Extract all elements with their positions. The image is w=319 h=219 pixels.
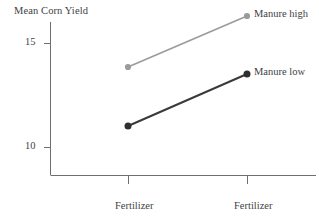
interaction-plot-canvas [0,0,319,219]
x-tick-label-fertilizer-low-line1: Fertilizer [115,200,153,211]
x-tick-label-fertilizer-high: Fertilizer high [203,190,293,219]
y-axis-title: Mean Corn Yield [14,6,88,17]
data-point-manure-high-fertilizer-low [125,64,131,70]
data-point-manure-high-fertilizer-high [244,13,250,19]
series-line-manure-low [128,74,247,126]
y-tick-label-15: 15 [25,37,36,48]
data-point-manure-low-fertilizer-high [244,71,251,78]
legend-label-manure-low: Manure low [254,67,305,78]
chart-container: Mean Corn Yield 15 10 Fertilizer low Fer… [0,0,319,219]
x-tick-label-fertilizer-low: Fertilizer low [84,190,174,219]
data-point-manure-low-fertilizer-low [125,123,132,130]
legend-label-manure-high: Manure high [254,9,308,20]
series-line-manure-high [128,16,247,67]
x-tick-label-fertilizer-high-line1: Fertilizer [234,200,272,211]
y-tick-label-10: 10 [25,141,36,152]
